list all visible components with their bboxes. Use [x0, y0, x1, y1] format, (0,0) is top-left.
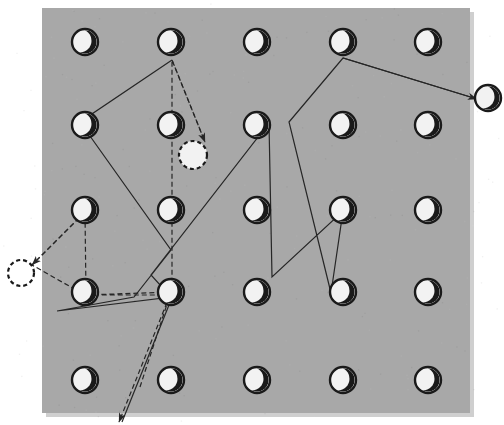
- grain-dot: [26, 340, 27, 341]
- crescent-moon-icon-r4c5[interactable]: [415, 279, 441, 305]
- grain-dot: [466, 304, 467, 305]
- grain-dot: [99, 196, 100, 197]
- grain-dot: [124, 294, 125, 295]
- crescent-moon-icon-r3c1[interactable]: [72, 197, 98, 223]
- crescent-moon-icon-r2c1[interactable]: [72, 112, 98, 138]
- grain-dot: [62, 74, 63, 75]
- crescent-moon-icon-r3c2[interactable]: [158, 197, 184, 223]
- grain-dot: [66, 77, 67, 78]
- crescent-shape: [331, 280, 354, 303]
- crescent-moon-icon-r2c5[interactable]: [415, 112, 441, 138]
- crescent-moon-icon-r5c1[interactable]: [72, 367, 98, 393]
- grain-dot: [95, 411, 96, 412]
- grain-dot: [401, 355, 402, 356]
- grain-dot: [185, 73, 186, 74]
- grain-dot: [215, 177, 216, 178]
- grain-dot: [327, 292, 328, 293]
- grain-dot: [429, 144, 430, 145]
- crescent-shape: [159, 280, 182, 303]
- grain-dot: [415, 229, 416, 230]
- crescent-moon-icon-r5c2[interactable]: [158, 367, 184, 393]
- grain-dot: [189, 36, 190, 37]
- grain-dot: [306, 32, 307, 33]
- grain-dot: [398, 15, 399, 16]
- grain-dot: [71, 79, 72, 80]
- crescent-moon-icon-r4c3[interactable]: [244, 279, 270, 305]
- crescent-moon-icon-r2c4[interactable]: [330, 112, 356, 138]
- ghost-node-left-exterior[interactable]: [8, 260, 34, 286]
- grain-dot: [62, 168, 63, 169]
- grain-dot: [114, 230, 115, 231]
- crescent-moon-icon-r3c5[interactable]: [415, 197, 441, 223]
- grain-dot: [73, 360, 74, 361]
- grain-dot: [134, 207, 135, 208]
- grain-dot: [90, 355, 91, 356]
- ghost-node-interior[interactable]: [179, 141, 207, 169]
- grain-dot: [30, 90, 31, 91]
- crescent-moon-icon-r5c3[interactable]: [244, 367, 270, 393]
- grain-dot: [26, 343, 27, 344]
- crescent-moon-icon-r1c2[interactable]: [158, 29, 184, 55]
- grain-dot: [467, 277, 468, 278]
- grain-dot: [179, 393, 180, 394]
- grain-dot: [34, 165, 35, 166]
- crescent-moon-icon-r1c3[interactable]: [244, 29, 270, 55]
- crescent-moon-icon-r1c1[interactable]: [72, 29, 98, 55]
- crescent-moon-icon-r2c3[interactable]: [244, 112, 270, 138]
- crescent-moon-icon-r1c5[interactable]: [415, 29, 441, 55]
- crescent-moon-icon-r1c4[interactable]: [330, 29, 356, 55]
- grain-dot: [51, 170, 52, 171]
- grain-dot: [116, 215, 117, 216]
- grain-dot: [347, 259, 348, 260]
- grain-dot: [243, 71, 244, 72]
- crescent-moon-icon-r4c2[interactable]: [158, 279, 184, 305]
- crescent-shape: [416, 30, 439, 53]
- grain-dot: [133, 327, 134, 328]
- grain-dot: [396, 141, 397, 142]
- grain-dot: [149, 170, 150, 171]
- grain-dot: [76, 99, 77, 100]
- grain-dot: [45, 76, 46, 77]
- grain-dot: [442, 302, 443, 303]
- crescent-moon-icon-r5c5[interactable]: [415, 367, 441, 393]
- grain-dot: [142, 240, 143, 241]
- crescent-shape: [331, 30, 354, 53]
- grain-dot: [28, 112, 29, 113]
- crescent-moon-icon-r5c4[interactable]: [330, 367, 356, 393]
- crescent-moon-icon-r3c3[interactable]: [244, 197, 270, 223]
- grain-dot: [402, 215, 403, 216]
- ghost-outline: [179, 141, 207, 169]
- crescent-shape: [245, 113, 268, 136]
- grain-dot: [325, 158, 326, 159]
- grain-dot: [276, 37, 277, 38]
- grain-dot: [92, 196, 93, 197]
- grain-dot: [21, 376, 22, 377]
- crescent-moon-icon-r2c2[interactable]: [158, 112, 184, 138]
- grain-dot: [393, 39, 394, 40]
- grain-dot: [477, 373, 478, 374]
- grain-dot: [74, 407, 75, 408]
- crescent-moon-icon-r4c4[interactable]: [330, 279, 356, 305]
- grain-dot: [369, 216, 370, 217]
- crescent-moon-icon-r3c4[interactable]: [330, 197, 356, 223]
- grain-dot: [358, 97, 359, 98]
- external-moon-right[interactable]: [475, 85, 501, 111]
- grain-dot: [417, 152, 418, 153]
- crescent-shape: [331, 198, 354, 221]
- grain-dot: [246, 54, 247, 55]
- grain-dot: [485, 53, 486, 54]
- grain-dot: [209, 73, 210, 74]
- crescent-shape: [416, 368, 439, 391]
- crescent-moon-icon-r4c1[interactable]: [72, 279, 98, 305]
- grain-dot: [264, 413, 265, 414]
- grain-dot: [31, 390, 32, 391]
- crescent-shape: [416, 280, 439, 303]
- grain-dot: [83, 174, 84, 175]
- grain-dot: [382, 7, 383, 8]
- crescent-shape: [331, 113, 354, 136]
- grain-dot: [258, 395, 259, 396]
- grain-dot: [472, 225, 473, 226]
- grain-dot: [464, 350, 465, 351]
- grain-dot: [16, 53, 17, 54]
- grain-dot: [150, 70, 151, 71]
